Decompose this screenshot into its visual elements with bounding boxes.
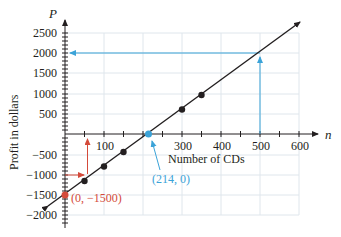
- svg-text:2000: 2000: [33, 46, 57, 60]
- y-axis-title: Profit in dollars: [7, 94, 21, 170]
- svg-text:300: 300: [174, 139, 192, 153]
- x-var-label: n: [325, 127, 332, 142]
- profit-chart: P n 2500 2000 1500 1000 500 −500 −1000 −…: [0, 0, 341, 237]
- x-axis: [65, 131, 318, 137]
- x-tick-labels: 100 300 400 500 600: [96, 139, 309, 153]
- svg-text:500: 500: [39, 107, 57, 121]
- point-150: [120, 149, 126, 155]
- x-axis-title: Number of CDs: [168, 152, 245, 166]
- svg-text:−1500: −1500: [26, 188, 57, 202]
- grid: [65, 33, 299, 215]
- svg-text:−2000: −2000: [26, 208, 57, 222]
- y-var-label: P: [48, 6, 57, 21]
- point-50: [81, 178, 87, 184]
- point-350: [198, 92, 204, 98]
- svg-text:2500: 2500: [33, 26, 57, 40]
- point-breakeven: [145, 131, 152, 138]
- breakeven-annotation: (214, 0): [152, 172, 190, 186]
- svg-text:−500: −500: [32, 148, 57, 162]
- svg-text:1500: 1500: [33, 66, 57, 80]
- svg-text:1000: 1000: [33, 87, 57, 101]
- svg-text:100: 100: [96, 139, 114, 153]
- svg-text:400: 400: [213, 139, 231, 153]
- red-guide: [65, 139, 88, 175]
- intercept-annotation: (0, −1500): [71, 191, 122, 205]
- svg-text:−1000: −1000: [26, 168, 57, 182]
- y-tick-labels: 2500 2000 1500 1000 500 −500 −1000 −1500…: [26, 26, 57, 222]
- point-300: [179, 106, 185, 112]
- point-100: [101, 163, 107, 169]
- point-intercept: [62, 192, 69, 199]
- svg-text:500: 500: [252, 139, 270, 153]
- svg-text:600: 600: [291, 139, 309, 153]
